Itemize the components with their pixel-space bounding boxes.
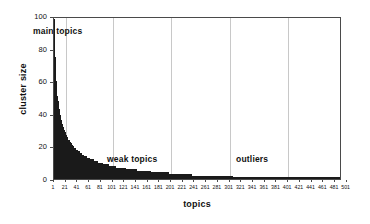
chart-figure: cluster size 020406080100 12141618110112… (0, 0, 370, 224)
x-tick-mark (322, 180, 323, 182)
annotation-outliers: outliers (236, 154, 268, 164)
x-tick-mark (182, 180, 183, 182)
x-tick-mark (65, 180, 66, 182)
x-tick-mark (135, 180, 136, 182)
x-tick-mark (53, 180, 54, 182)
x-axis-ticks: 1214161811011211411611812012212412612813… (53, 182, 341, 194)
x-tick-label: 381 (271, 184, 280, 190)
x-tick-label: 441 (306, 184, 315, 190)
x-tick-mark (100, 180, 101, 182)
x-tick-label: 121 (119, 184, 128, 190)
x-tick-label: 81 (97, 184, 103, 190)
x-tick-label: 321 (236, 184, 245, 190)
x-tick-label: 421 (295, 184, 304, 190)
x-tick-mark (275, 180, 276, 182)
x-tick-label: 501 (341, 184, 350, 190)
annotation-weak-topics: weak topics (107, 154, 157, 164)
x-tick-label: 1 (52, 184, 55, 190)
x-tick-mark (158, 180, 159, 182)
plot-inner (54, 18, 340, 179)
x-tick-label: 281 (213, 184, 222, 190)
x-tick-label: 21 (62, 184, 68, 190)
x-tick-label: 461 (318, 184, 327, 190)
x-tick-mark (170, 180, 171, 182)
x-tick-mark (252, 180, 253, 182)
x-tick-mark (240, 180, 241, 182)
x-tick-mark (264, 180, 265, 182)
x-tick-label: 221 (177, 184, 186, 190)
y-tick-label: 0 (25, 176, 47, 184)
x-tick-label: 161 (142, 184, 151, 190)
x-tick-label: 261 (201, 184, 210, 190)
x-tick-mark (299, 180, 300, 182)
x-tick-mark (287, 180, 288, 182)
x-tick-label: 401 (283, 184, 292, 190)
x-tick-label: 341 (248, 184, 257, 190)
x-tick-label: 61 (85, 184, 91, 190)
x-tick-mark (217, 180, 218, 182)
x-tick-label: 241 (189, 184, 198, 190)
x-axis-title: topics (53, 199, 341, 209)
bar-series (54, 18, 340, 179)
x-tick-label: 361 (259, 184, 268, 190)
x-tick-mark (346, 180, 347, 182)
x-tick-mark (88, 180, 89, 182)
y-tick-label: 80 (25, 46, 47, 54)
x-tick-mark (76, 180, 77, 182)
x-tick-mark (334, 180, 335, 182)
y-tick-label: 20 (25, 143, 47, 151)
x-tick-label: 101 (107, 184, 116, 190)
x-tick-label: 141 (131, 184, 140, 190)
annotation-main-topics: main topics (33, 26, 82, 36)
x-tick-mark (147, 180, 148, 182)
x-tick-mark (123, 180, 124, 182)
y-tick-label: 60 (25, 78, 47, 86)
x-tick-mark (112, 180, 113, 182)
x-tick-label: 301 (224, 184, 233, 190)
x-tick-label: 41 (74, 184, 80, 190)
x-tick-mark (311, 180, 312, 182)
x-tick-mark (205, 180, 206, 182)
y-tick-label: 40 (25, 111, 47, 119)
x-tick-label: 201 (166, 184, 175, 190)
plot-area (53, 17, 341, 180)
y-tick-label: 100 (25, 13, 47, 21)
x-tick-mark (229, 180, 230, 182)
x-tick-mark (193, 180, 194, 182)
x-tick-label: 181 (154, 184, 163, 190)
x-tick-label: 481 (330, 184, 339, 190)
